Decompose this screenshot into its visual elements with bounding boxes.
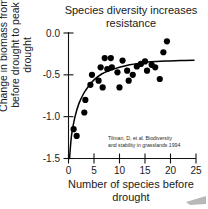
chart-figure: Species diversity increases resistance C… xyxy=(0,0,208,209)
data-point xyxy=(87,82,93,88)
data-point xyxy=(152,64,158,70)
data-point xyxy=(142,58,148,64)
y-tick-label-0: 0.0 xyxy=(46,28,60,39)
data-point xyxy=(144,68,150,74)
scatter-points xyxy=(71,38,171,139)
x-tick-label-5: 25 xyxy=(190,165,202,176)
y-tick-label-2: -1.0 xyxy=(43,111,61,122)
citation-annotation: Tilman, D, et al. Biodiversity and stabi… xyxy=(108,135,180,148)
data-point xyxy=(164,38,170,44)
data-point xyxy=(114,69,120,75)
x-tick-label-1: 5 xyxy=(91,165,97,176)
citation-line-1: Tilman, D, et al. Biodiversity xyxy=(108,135,172,141)
data-point xyxy=(130,72,136,78)
data-point xyxy=(71,126,77,132)
data-point xyxy=(81,109,87,115)
plot-area: 0.0-0.5-1.0-1.5 0510152025 Tilman, D, et… xyxy=(0,0,208,209)
x-tick-label-0: 0 xyxy=(66,165,72,176)
data-point xyxy=(82,97,88,103)
data-point xyxy=(116,84,122,90)
data-point xyxy=(100,84,106,90)
data-point xyxy=(119,58,125,64)
data-point xyxy=(95,78,101,84)
data-point xyxy=(124,68,130,74)
x-axis-ticks: 0510152025 xyxy=(66,154,202,177)
data-point xyxy=(98,64,104,70)
data-point xyxy=(102,55,108,61)
x-tick-label-4: 20 xyxy=(165,165,177,176)
scan-artifact xyxy=(186,196,206,205)
data-point xyxy=(109,64,115,70)
data-point xyxy=(108,55,114,61)
data-point xyxy=(126,78,132,84)
citation-line-2: and stability in grasslands 1994 xyxy=(108,142,180,148)
x-tick-label-2: 10 xyxy=(114,165,126,176)
y-tick-label-3: -1.5 xyxy=(43,153,61,164)
y-tick-label-1: -0.5 xyxy=(43,69,61,80)
data-point xyxy=(89,72,95,78)
x-tick-label-3: 15 xyxy=(139,165,151,176)
data-point xyxy=(160,49,166,55)
data-point xyxy=(157,76,163,82)
data-point xyxy=(74,133,80,139)
